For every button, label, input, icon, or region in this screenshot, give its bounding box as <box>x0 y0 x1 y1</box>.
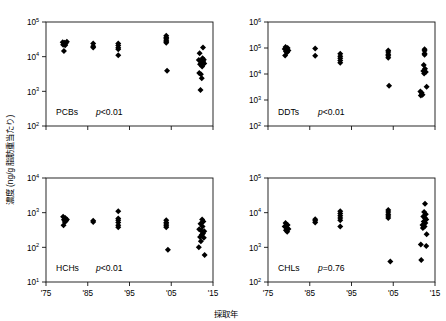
y-tick-label: 106 <box>249 17 261 28</box>
y-tick-label: 104 <box>27 173 39 184</box>
x-tick-label: '15 <box>430 289 441 298</box>
data-point <box>312 53 318 59</box>
x-tick-label: '85 <box>304 289 315 298</box>
panel-ddts: 102103104105106DDTsp<0.01 <box>249 17 435 132</box>
data-point <box>422 201 428 207</box>
panel-title: PCBs <box>56 107 78 117</box>
data-point <box>115 52 121 58</box>
x-tick-label: '95 <box>124 289 135 298</box>
data-point <box>90 219 96 225</box>
y-tick-label: 102 <box>249 277 261 288</box>
data-point <box>197 87 203 93</box>
x-tick-label: '05 <box>166 289 177 298</box>
panel-hchs: 101102103104'75'85'95'05'15HCHsp<0.01 <box>27 173 219 298</box>
panel-title: CHLs <box>278 263 300 273</box>
panel-chls: 102103104105'75'85'95'05'15CHLsp=0.76 <box>249 173 441 298</box>
panel-pvalue: p=0.76 <box>317 263 345 273</box>
data-point <box>115 208 121 214</box>
panel-pcbs: 102103104105PCBsp<0.01 <box>27 17 213 132</box>
data-point <box>61 48 67 54</box>
data-point <box>424 84 430 90</box>
data-point <box>418 257 424 263</box>
data-point <box>386 83 392 89</box>
x-tick-label: '05 <box>388 289 399 298</box>
y-tick-label: 104 <box>27 51 39 62</box>
data-point <box>165 247 171 253</box>
x-tick-label: '15 <box>208 289 219 298</box>
y-tick-label: 104 <box>249 69 261 80</box>
figure-container: 102103104105PCBsp<0.01102103104105106DDT… <box>0 0 446 321</box>
y-tick-label: 105 <box>249 43 261 54</box>
data-point <box>90 44 96 50</box>
data-point <box>164 68 170 74</box>
y-tick-label: 103 <box>27 207 39 218</box>
y-tick-label: 104 <box>249 207 261 218</box>
data-point <box>423 243 429 249</box>
panel-pvalue: p<0.01 <box>95 263 123 273</box>
y-tick-label: 102 <box>27 242 39 253</box>
y-tick-label: 103 <box>249 95 261 106</box>
y-tick-label: 102 <box>249 121 261 132</box>
panel-pvalue: p<0.01 <box>317 107 345 117</box>
x-axis-title: 採取年 <box>214 309 238 319</box>
panel-title: DDTs <box>278 107 299 117</box>
multi-panel-scatter-figure: 102103104105PCBsp<0.01102103104105106DDT… <box>0 0 446 321</box>
data-point <box>196 244 202 250</box>
y-tick-label: 102 <box>27 121 39 132</box>
x-tick-label: '75 <box>263 289 274 298</box>
panel-pvalue: p<0.01 <box>95 107 123 117</box>
data-point <box>418 242 424 248</box>
data-point <box>200 44 206 50</box>
data-point <box>199 75 205 81</box>
data-point <box>312 46 318 52</box>
panel-title: HCHs <box>56 263 79 273</box>
x-tick-label: '75 <box>41 289 52 298</box>
y-tick-label: 105 <box>27 17 39 28</box>
data-point <box>424 231 430 237</box>
data-point <box>387 259 393 265</box>
y-tick-label: 105 <box>249 173 261 184</box>
y-tick-label: 103 <box>249 242 261 253</box>
x-tick-label: '85 <box>82 289 93 298</box>
data-point <box>202 252 208 258</box>
x-tick-label: '95 <box>346 289 357 298</box>
data-point <box>197 50 203 56</box>
y-tick-label: 101 <box>27 277 39 288</box>
y-tick-label: 103 <box>27 86 39 97</box>
y-axis-title: 濃度 (ng/g 脂肪重当たり) <box>5 115 15 206</box>
panels-group: 102103104105PCBsp<0.01102103104105106DDT… <box>27 17 441 298</box>
data-point <box>337 223 343 229</box>
